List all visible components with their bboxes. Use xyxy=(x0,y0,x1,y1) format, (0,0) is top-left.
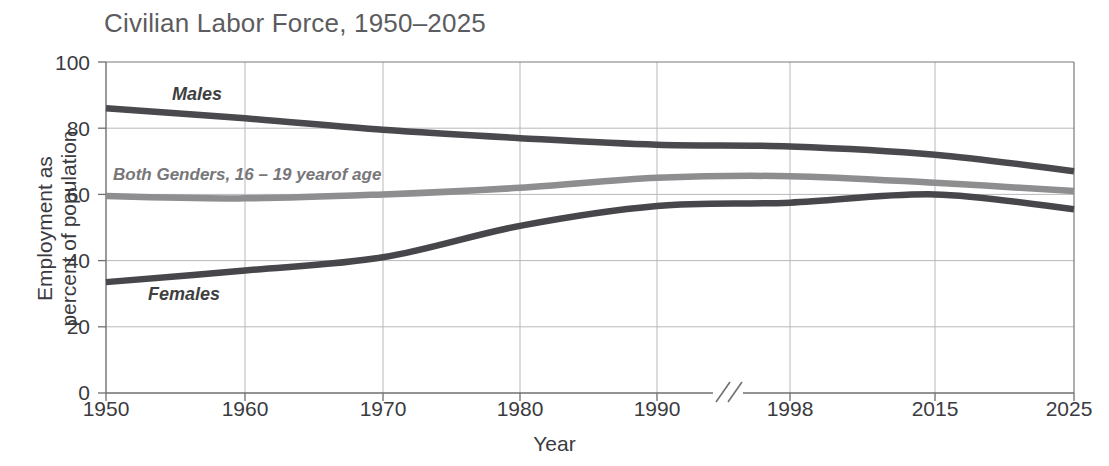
chart-figure: Civilian Labor Force, 1950–2025 Employme… xyxy=(0,0,1109,466)
series-males-line xyxy=(106,108,1074,171)
vertical-gridlines xyxy=(245,62,935,393)
series-label-males: Males xyxy=(172,84,222,105)
plot-area xyxy=(0,0,1109,466)
series-females-line xyxy=(106,194,1074,282)
y-axis-ticks xyxy=(98,62,106,393)
plot-frame xyxy=(106,62,1074,393)
series-label-both-genders: Both Genders, 16 – 19 yearof age xyxy=(113,165,381,185)
horizontal-gridlines xyxy=(106,128,1074,327)
series-label-females: Females xyxy=(148,284,220,305)
axis-break-icon xyxy=(713,382,743,402)
x-axis-ticks xyxy=(106,393,1074,401)
